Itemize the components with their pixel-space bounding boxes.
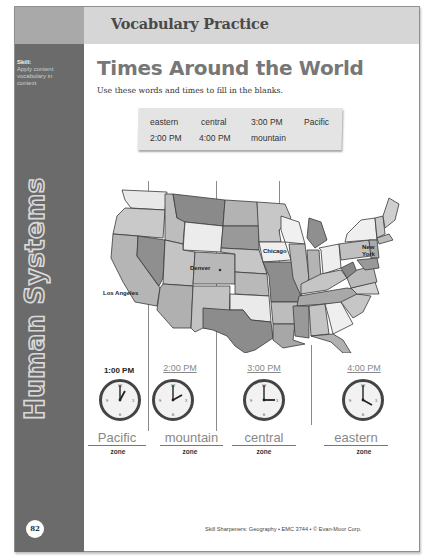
clock-icon-4pm: 12369 xyxy=(341,378,385,422)
word-bank-item: eastern xyxy=(150,117,178,127)
zone-label: zone xyxy=(334,448,394,455)
word-bank-item: central xyxy=(201,117,227,127)
svg-text:9: 9 xyxy=(250,398,253,403)
zone-answer-central: central xyxy=(232,430,296,446)
city-label-los-angeles: Los Angeles xyxy=(103,290,138,297)
svg-text:3: 3 xyxy=(276,398,279,403)
denver-marker-icon xyxy=(219,269,222,272)
word-bank-item: Pacific xyxy=(304,117,329,127)
word-bank-item: 4:00 PM xyxy=(199,133,231,143)
clock-icon-3pm: 12369 xyxy=(242,378,286,422)
page-number: 82 xyxy=(26,520,44,538)
sidebar-top-block xyxy=(15,7,84,44)
zone-label: zone xyxy=(88,448,148,455)
header-bar: Vocabulary Practice xyxy=(84,7,419,44)
svg-text:6: 6 xyxy=(362,412,365,417)
skill-label: Skill: xyxy=(17,59,69,66)
svg-text:9: 9 xyxy=(106,398,109,403)
clock-time-label-pacific: 1:00 PM xyxy=(89,366,149,375)
word-bank: eastern central 3:00 PM Pacific 2:00 PM … xyxy=(137,108,342,150)
unit-title: Human Systems xyxy=(2,210,68,420)
clock-time-answer-central: 3:00 PM xyxy=(234,363,294,373)
clock-icon-1pm: 12369 xyxy=(98,378,142,422)
svg-text:3: 3 xyxy=(185,398,188,403)
word-bank-item: 3:00 PM xyxy=(251,117,283,127)
clock-time-answer-mountain: 2:00 PM xyxy=(150,363,210,373)
us-map-icon xyxy=(95,178,405,353)
section-title: Vocabulary Practice xyxy=(111,15,269,32)
svg-text:3: 3 xyxy=(132,398,135,403)
svg-text:3: 3 xyxy=(375,398,378,403)
svg-text:6: 6 xyxy=(172,412,175,417)
zone-label: zone xyxy=(234,448,294,455)
clock-time-answer-eastern: 4:00 PM xyxy=(334,363,394,373)
zone-answer-eastern: eastern xyxy=(324,430,388,446)
city-label-new-york: New York xyxy=(362,244,382,258)
instructions: Use these words and times to fill in the… xyxy=(97,86,283,95)
svg-text:9: 9 xyxy=(349,398,352,403)
skill-box: Skill: Apply content vocabulary in conte… xyxy=(17,59,69,87)
city-label-denver: Denver xyxy=(190,265,210,272)
svg-text:6: 6 xyxy=(263,412,266,417)
word-bank-item: mountain xyxy=(251,133,286,143)
svg-text:9: 9 xyxy=(159,398,162,403)
word-bank-item: 2:00 PM xyxy=(150,133,182,143)
city-label-chicago: Chicago xyxy=(263,248,287,255)
page-title: Times Around the World xyxy=(97,56,363,80)
us-time-zone-map xyxy=(95,178,405,353)
clock-icon-2pm: 12369 xyxy=(151,378,195,422)
zone-divider-line xyxy=(311,345,312,425)
zone-label: zone xyxy=(160,448,220,455)
footer-credit: Skill Sharpeners: Geography • EMC 3744 •… xyxy=(205,526,361,532)
skill-text: Apply content vocabulary in context xyxy=(17,66,69,87)
zone-answer-pacific: Pacific xyxy=(88,430,146,446)
zone-answer-mountain: mountain xyxy=(160,430,223,446)
svg-text:6: 6 xyxy=(119,412,122,417)
